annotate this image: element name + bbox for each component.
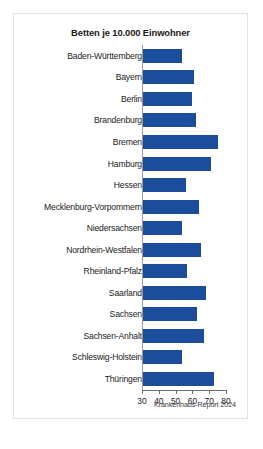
bar-category-label: Bremen xyxy=(113,137,142,147)
bar-row: Mecklenburg-Vorpommern xyxy=(14,196,249,218)
bar-fill xyxy=(142,92,192,106)
x-tick-mark xyxy=(226,390,227,394)
bar-category-label: Niedersachsen xyxy=(87,223,142,233)
bar-category-label: Saarland xyxy=(109,288,142,298)
bar-row: Hessen xyxy=(14,174,249,196)
bar-track xyxy=(142,45,236,67)
bar-track xyxy=(142,239,236,261)
bar-fill xyxy=(142,329,204,343)
plot-area: Baden-WürttembergBayernBerlinBrandenburg… xyxy=(14,45,249,390)
bar-row: Niedersachsen xyxy=(14,217,249,239)
bar-row: Bremen xyxy=(14,131,249,153)
bar-track xyxy=(142,260,236,282)
bar-fill xyxy=(142,200,199,214)
bar-track xyxy=(142,88,236,110)
bar-category-label: Thüringen xyxy=(105,374,142,384)
bar-track xyxy=(142,67,236,89)
bar-row: Saarland xyxy=(14,282,249,304)
bar-track xyxy=(142,282,236,304)
x-tick-label: 30 xyxy=(137,396,146,406)
bar-fill xyxy=(142,70,194,84)
y-axis-spine xyxy=(142,45,143,390)
bar-row: Rheinland-Pfalz xyxy=(14,260,249,282)
source-note: Krankenhaus-Report 2024 xyxy=(154,400,236,409)
bar-track xyxy=(142,368,236,390)
bar-fill xyxy=(142,264,187,278)
bar-row: Sachsen-Anhalt xyxy=(14,325,249,347)
bar-track xyxy=(142,325,236,347)
bar-category-label: Rheinland-Pfalz xyxy=(84,266,142,276)
bar-category-label: Sachsen xyxy=(110,309,142,319)
bar-fill xyxy=(142,243,201,257)
bar-category-label: Baden-Württemberg xyxy=(67,51,142,61)
bar-category-label: Brandenburg xyxy=(94,115,142,125)
bar-row: Schleswig-Holstein xyxy=(14,347,249,369)
bar-row: Sachsen xyxy=(14,304,249,326)
bar-fill xyxy=(142,350,182,364)
bar-row: Berlin xyxy=(14,88,249,110)
bar-track xyxy=(142,196,236,218)
bar-row: Brandenburg xyxy=(14,110,249,132)
bar-track xyxy=(142,347,236,369)
bar-category-label: Hessen xyxy=(114,180,142,190)
bar-category-label: Schleswig-Holstein xyxy=(72,352,142,362)
x-tick-mark xyxy=(192,390,193,394)
bar-category-label: Mecklenburg-Vorpommern xyxy=(44,202,142,212)
x-tick-mark xyxy=(159,390,160,394)
bar-fill xyxy=(142,113,196,127)
bar-track xyxy=(142,217,236,239)
bar-row: Thüringen xyxy=(14,368,249,390)
x-axis-line xyxy=(142,390,226,391)
x-tick-mark xyxy=(176,390,177,394)
bar-track xyxy=(142,304,236,326)
bar-track xyxy=(142,131,236,153)
bar-fill xyxy=(142,221,182,235)
bar-fill xyxy=(142,178,186,192)
bar-row: Hamburg xyxy=(14,153,249,175)
bar-row: Baden-Württemberg xyxy=(14,45,249,67)
bar-category-label: Hamburg xyxy=(108,159,142,169)
bar-track xyxy=(142,174,236,196)
chart-figure: Betten je 10.000 Einwohner Baden-Württem… xyxy=(13,13,248,419)
bar-row: Bayern xyxy=(14,67,249,89)
bar-fill xyxy=(142,135,218,149)
x-tick-mark xyxy=(209,390,210,394)
bar-category-label: Nordrhein-Westfalen xyxy=(66,245,142,255)
bar-track xyxy=(142,110,236,132)
chart-title: Betten je 10.000 Einwohner xyxy=(14,27,247,38)
bar-category-label: Bayern xyxy=(116,72,142,82)
bar-fill xyxy=(142,307,197,321)
bar-fill xyxy=(142,157,211,171)
bar-category-label: Sachsen-Anhalt xyxy=(83,331,142,341)
x-tick-mark xyxy=(142,390,143,394)
bar-fill xyxy=(142,49,182,63)
bar-fill xyxy=(142,286,206,300)
bar-fill xyxy=(142,372,214,386)
bar-row: Nordrhein-Westfalen xyxy=(14,239,249,261)
bar-track xyxy=(142,153,236,175)
bar-category-label: Berlin xyxy=(121,94,142,104)
